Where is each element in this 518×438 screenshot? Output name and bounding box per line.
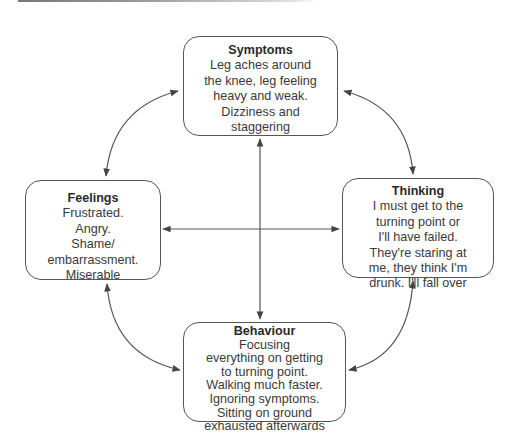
node-feelings-line: Shame/ xyxy=(26,237,160,252)
node-feelings-title: Feelings xyxy=(26,191,160,206)
node-behaviour-title: Behaviour xyxy=(184,325,345,339)
node-thinking-title: Thinking xyxy=(343,184,493,199)
node-feelings-line: Miserable xyxy=(26,268,160,283)
node-symptoms-line: Leg aches around xyxy=(184,58,337,73)
node-behaviour-line: exhausted afterwards xyxy=(184,420,345,434)
node-feelings-line: Frustrated. xyxy=(26,206,160,221)
node-behaviour: Behaviour Focusing everything on getting… xyxy=(183,322,346,422)
node-behaviour-line: to turning point. xyxy=(184,366,345,380)
node-thinking-line: I'll have failed. xyxy=(343,230,493,245)
node-feelings: Feelings Frustrated. Angry. Shame/ embar… xyxy=(25,180,161,280)
arrow-symptoms-thinking xyxy=(344,91,413,174)
node-thinking-line: I must get to the xyxy=(343,199,493,214)
node-symptoms-line: heavy and weak. xyxy=(184,89,337,104)
node-symptoms-line: staggering xyxy=(184,120,337,135)
node-feelings-line: embarrassment. xyxy=(26,253,160,268)
node-behaviour-line: Focusing xyxy=(184,339,345,353)
node-behaviour-line: Sitting on ground xyxy=(184,407,345,421)
node-behaviour-line: everything on getting xyxy=(184,352,345,366)
node-symptoms-line: the knee, leg feeling xyxy=(184,74,337,89)
arrow-symptoms-feelings xyxy=(106,91,178,176)
node-thinking-line: They're staring at xyxy=(343,246,493,261)
node-thinking-line: turning point or xyxy=(343,215,493,230)
node-behaviour-line: Walking much faster. xyxy=(184,379,345,393)
node-thinking-line: me, they think I'm xyxy=(343,261,493,276)
arrow-thinking-behaviour xyxy=(349,281,413,370)
node-feelings-line: Angry. xyxy=(26,222,160,237)
node-symptoms-title: Symptoms xyxy=(184,43,337,58)
node-symptoms-line: Dizziness and xyxy=(184,105,337,120)
node-behaviour-line: Ignoring symptoms. xyxy=(184,393,345,407)
arrow-feelings-behaviour xyxy=(107,284,180,370)
node-symptoms: Symptoms Leg aches around the knee, leg … xyxy=(183,36,338,136)
node-thinking: Thinking I must get to the turning point… xyxy=(342,178,494,278)
node-thinking-line: drunk. I'll fall over xyxy=(343,276,493,291)
